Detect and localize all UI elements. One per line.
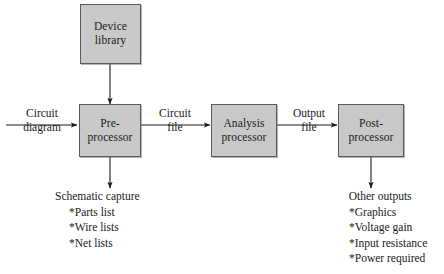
node-device-library-line-2: library <box>95 34 126 48</box>
node-post-processor-line-1: Post- <box>359 117 383 131</box>
node-post-processor: Post- processor <box>338 104 404 157</box>
node-pre-processor-line-1: Pre- <box>100 117 120 131</box>
edge-label-circuit-diagram: Circuit diagram <box>8 107 76 134</box>
output-list-other-outputs-items: *Graphics *Voltage gain *Input resistanc… <box>333 205 427 266</box>
node-analysis-processor-line-1: Analysis <box>223 117 264 131</box>
list-item: *Wire lists <box>69 220 140 235</box>
node-post-processor-line-2: processor <box>349 131 394 145</box>
node-pre-processor-line-2: processor <box>88 131 133 145</box>
edge-label-circuit-diagram-line-1: Circuit <box>8 107 76 121</box>
node-device-library-line-1: Device <box>94 20 127 34</box>
output-list-schematic-capture-title: Schematic capture <box>55 189 140 204</box>
edge-label-circuit-diagram-line-2: diagram <box>8 121 76 135</box>
node-analysis-processor-line-2: processor <box>222 131 267 145</box>
output-list-other-outputs: Other outputs *Graphics *Voltage gain *I… <box>333 189 427 266</box>
edge-label-output-file: Output file <box>282 107 336 134</box>
list-item: *Net lists <box>69 236 140 251</box>
output-list-other-outputs-title: Other outputs <box>333 189 427 204</box>
edge-label-circuit-file: Circuit file <box>145 107 205 134</box>
output-list-schematic-capture-items: *Parts list *Wire lists *Net lists <box>55 205 140 251</box>
edge-label-circuit-file-line-1: Circuit <box>145 107 205 121</box>
flow-diagram: Device library Pre- processor Analysis p… <box>0 0 444 274</box>
edge-label-output-file-line-2: file <box>282 121 336 135</box>
output-list-schematic-capture: Schematic capture *Parts list *Wire list… <box>55 189 140 251</box>
list-item: *Power required <box>349 251 427 266</box>
node-pre-processor: Pre- processor <box>79 104 141 157</box>
edge-label-output-file-line-1: Output <box>282 107 336 121</box>
list-item: *Voltage gain <box>349 220 427 235</box>
edge-label-circuit-file-line-2: file <box>145 121 205 135</box>
list-item: *Input resistance <box>349 236 427 251</box>
node-device-library: Device library <box>80 4 141 64</box>
node-analysis-processor: Analysis processor <box>211 104 277 157</box>
list-item: *Graphics <box>349 205 427 220</box>
list-item: *Parts list <box>69 205 140 220</box>
